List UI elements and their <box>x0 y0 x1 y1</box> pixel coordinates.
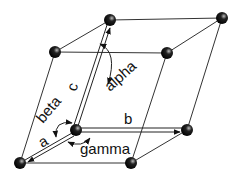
label-a: a <box>35 131 51 150</box>
atom-ab <box>125 157 137 169</box>
label-c: c <box>63 80 82 93</box>
atom-b <box>181 124 193 136</box>
unit-cell-diagram: c alpha b beta a gamma <box>0 0 244 182</box>
atom-ac <box>49 46 61 58</box>
atom-a <box>14 157 26 169</box>
label-b: b <box>124 110 132 127</box>
atom-bc <box>216 12 228 24</box>
label-beta: beta <box>32 92 64 126</box>
vector-b <box>80 128 183 132</box>
atom-abc <box>161 47 173 59</box>
vector-a <box>25 133 74 162</box>
atom-origin <box>70 124 82 136</box>
label-gamma: gamma <box>80 140 131 157</box>
vector-c <box>74 25 110 126</box>
label-alpha: alpha <box>101 57 140 95</box>
atom-c <box>104 14 116 26</box>
